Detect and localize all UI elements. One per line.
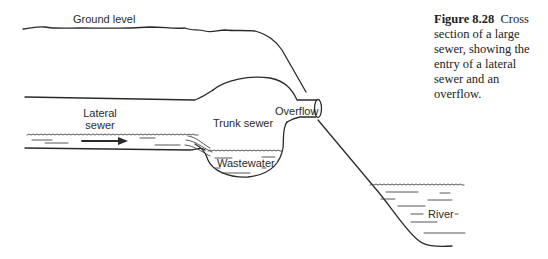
figure-caption: Figure 8.28 Cross section of a large sew… (434, 12, 548, 102)
lateral-sewer-bottom (25, 148, 205, 150)
wastewater-label: Wastewater (217, 157, 275, 169)
flow-arrow-head (118, 137, 128, 145)
lateral-water-surface (27, 134, 198, 135)
lateral-sewer-label-line1: Lateral (83, 107, 117, 119)
trunk-sewer-wall (213, 77, 316, 100)
ground-surface-line (23, 27, 306, 92)
figure-number: Figure 8.28 (434, 12, 494, 26)
lateral-sewer-label-line2: sewer (85, 119, 115, 131)
lateral-sewer-top (25, 90, 213, 100)
trunk-sewer-label: Trunk sewer (213, 117, 273, 129)
trunk-water-surface (208, 150, 282, 151)
ground-level-label: Ground level (73, 13, 135, 25)
river-water-surface (370, 184, 464, 185)
overflow-label: Overflow (275, 105, 318, 117)
river-label: River (428, 208, 454, 220)
river-bank-line (318, 120, 452, 246)
